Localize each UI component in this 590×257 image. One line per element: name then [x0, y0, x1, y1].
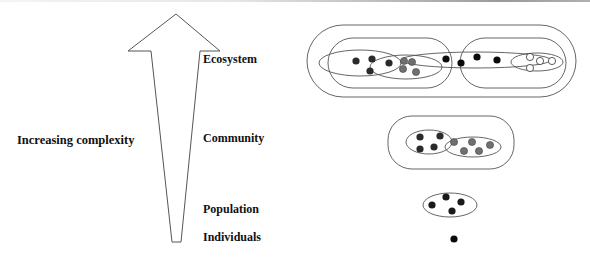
- axis-label-increasing-complexity: Increasing complexity: [17, 133, 134, 148]
- level-label-individuals: Individuals: [203, 230, 261, 245]
- ecology-hierarchy-diagram: [0, 0, 590, 257]
- population-ellipse: [406, 130, 452, 154]
- population-illustration: [423, 193, 477, 217]
- community-illustration: [388, 116, 514, 169]
- individual-dot: [450, 235, 457, 242]
- ecosystem-outer-boundary: [307, 25, 576, 97]
- level-label-population: Population: [203, 202, 259, 217]
- ecosystem-illustration: [307, 25, 576, 97]
- level-label-community: Community: [203, 131, 264, 146]
- level-label-ecosystem: Ecosystem: [203, 52, 257, 67]
